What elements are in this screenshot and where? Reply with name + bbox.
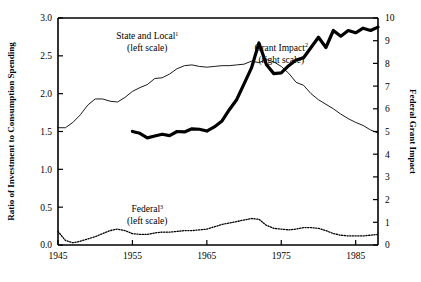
y-axis-right-tick-label: 7 xyxy=(385,82,390,92)
y-axis-right-tick-label: 10 xyxy=(385,13,395,23)
line-chart: 0.00.51.01.52.02.53.00123456789101945195… xyxy=(0,0,421,282)
y-axis-right-tick-label: 4 xyxy=(385,150,390,160)
series-scale-note-grant-impact: (right scale) xyxy=(258,55,304,66)
x-axis-tick-label: 1985 xyxy=(346,251,365,261)
series-scale-note-state-and-local: (left scale) xyxy=(127,43,167,54)
x-axis-tick-label: 1945 xyxy=(49,251,68,261)
y-axis-right-tick-label: 2 xyxy=(385,195,390,205)
y-axis-left-tick-label: 2.5 xyxy=(40,51,52,61)
series-line-federal xyxy=(58,219,378,243)
y-axis-right-tick-label: 8 xyxy=(385,59,390,69)
y-axis-right-title: Federal Grant Impact xyxy=(408,89,418,174)
y-axis-right-tick-label: 1 xyxy=(385,218,390,228)
chart-figure: 0.00.51.01.52.02.53.00123456789101945195… xyxy=(0,0,421,282)
y-axis-left-tick-label: 0.0 xyxy=(40,240,52,250)
series-line-state-and-local xyxy=(58,60,378,133)
x-axis-tick-label: 1965 xyxy=(197,251,216,261)
y-axis-right-tick-label: 3 xyxy=(385,172,390,182)
y-axis-left-title: Ratio of Investment to Consumption Spend… xyxy=(6,42,16,221)
x-axis-tick-label: 1955 xyxy=(123,251,142,261)
series-scale-note-federal: (left scale) xyxy=(127,216,167,227)
y-axis-left-tick-label: 1.0 xyxy=(40,165,52,175)
y-axis-right-tick-label: 5 xyxy=(385,127,390,137)
y-axis-right-tick-label: 0 xyxy=(385,240,390,250)
series-label-federal: Federal3 xyxy=(132,204,164,215)
y-axis-right-tick-label: 6 xyxy=(385,104,390,114)
y-axis-left-tick-label: 2.0 xyxy=(40,89,52,99)
y-axis-right-tick-label: 9 xyxy=(385,36,390,46)
y-axis-left-tick-label: 3.0 xyxy=(40,13,52,23)
x-axis-tick-label: 1975 xyxy=(272,251,291,261)
series-label-state-and-local: State and Local1 xyxy=(116,31,178,42)
series-label-grant-impact: Grant Impact2 xyxy=(255,42,308,53)
y-axis-left-tick-label: 1.5 xyxy=(40,127,52,137)
y-axis-left-tick-label: 0.5 xyxy=(40,203,52,213)
